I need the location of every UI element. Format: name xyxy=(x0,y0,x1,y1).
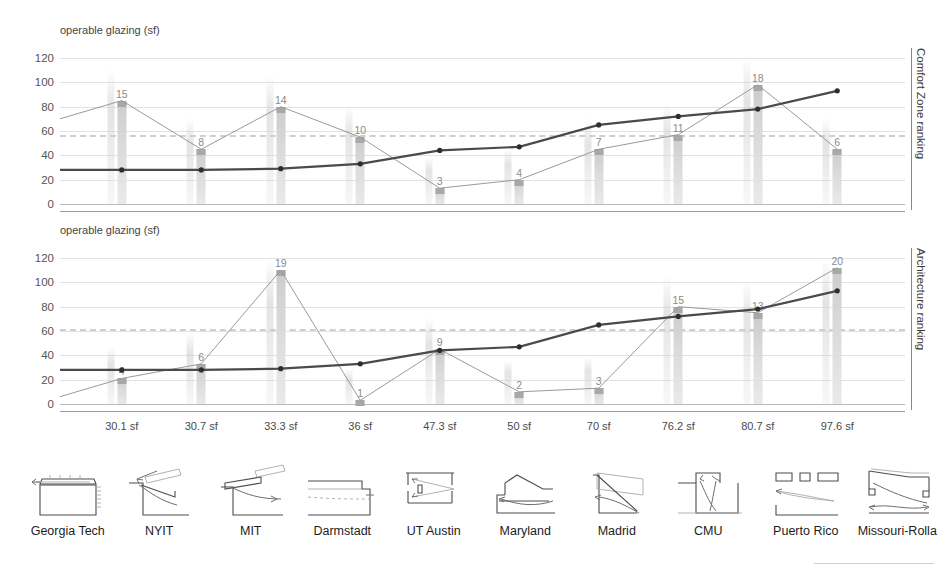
ut-austin-section xyxy=(392,455,476,521)
y-tick-label-100: 100 xyxy=(35,76,54,88)
school-label-missouri-rolla: Missouri-Rolla xyxy=(858,524,937,538)
x-tick-label: 47.3 sf xyxy=(423,420,456,432)
data-point xyxy=(755,107,760,112)
top-chart-axis-title: operable glazing (sf) xyxy=(60,24,160,36)
y-tick-label-100: 100 xyxy=(35,276,54,288)
y-tick-label-20: 20 xyxy=(41,174,54,186)
bottom-chart-vertical-label: Architecture ranking xyxy=(911,248,927,410)
data-point xyxy=(596,322,601,327)
architecture-ranking-chart: operable glazing (sf) 020406080100120461… xyxy=(60,246,905,412)
data-point xyxy=(437,148,442,153)
bottom-chart-axis-title: operable glazing (sf) xyxy=(60,224,160,236)
y-tick-label-120: 120 xyxy=(35,52,54,64)
data-point xyxy=(278,366,283,371)
school-label-puerto-rico: Puerto Rico xyxy=(773,524,838,538)
darmstadt-section xyxy=(300,455,384,521)
top-chart-vertical-label: Comfort Zone ranking xyxy=(911,48,927,210)
y-tick-label-0: 0 xyxy=(48,398,54,410)
y-tick-label-0: 0 xyxy=(48,198,54,210)
y-tick-label-20: 20 xyxy=(41,374,54,386)
footer-rule xyxy=(814,563,934,564)
school-label-nyit: NYIT xyxy=(145,524,173,538)
y-tick-label-40: 40 xyxy=(41,149,54,161)
data-point xyxy=(119,367,124,372)
data-point xyxy=(835,288,840,293)
data-point xyxy=(755,307,760,312)
puerto-rico-section xyxy=(764,455,848,521)
ranking-trend-line-stub xyxy=(60,378,122,396)
data-point xyxy=(199,367,204,372)
data-point xyxy=(835,88,840,93)
x-tick-label: 76.2 sf xyxy=(662,420,695,432)
x-tick-label: 50 sf xyxy=(507,420,531,432)
madrid-section xyxy=(575,455,659,521)
section-thumbnail-strip xyxy=(22,455,937,523)
school-label-madrid: Madrid xyxy=(598,524,636,538)
data-point xyxy=(119,167,124,172)
x-axis-tick-labels: 30.1 sf30.7 sf33.3 sf36 sf47.3 sf50 sf70… xyxy=(60,420,905,438)
y-tick-label-80: 80 xyxy=(41,101,54,113)
y-tick-label-40: 40 xyxy=(41,349,54,361)
data-point xyxy=(199,167,204,172)
x-tick-label: 80.7 sf xyxy=(741,420,774,432)
data-point xyxy=(358,161,363,166)
bottom-chart-lines xyxy=(60,246,905,412)
school-label-mit: MIT xyxy=(240,524,262,538)
school-label-cmu: CMU xyxy=(694,524,722,538)
maryland-section xyxy=(483,455,567,521)
data-point xyxy=(676,114,681,119)
missouri-rolla-section xyxy=(855,455,939,521)
cmu-section xyxy=(666,455,750,521)
data-point xyxy=(676,314,681,319)
data-point xyxy=(437,348,442,353)
y-tick-label-80: 80 xyxy=(41,301,54,313)
data-point xyxy=(517,144,522,149)
x-tick-label: 36 sf xyxy=(348,420,372,432)
comfort-zone-chart: operable glazing (sf) 020406080100120158… xyxy=(60,46,905,212)
georgia-tech-section xyxy=(26,455,110,521)
school-name-row: Georgia TechNYITMITDarmstadtUT AustinMar… xyxy=(22,524,937,544)
ranking-trend-line-stub xyxy=(60,101,122,119)
school-label-ut-austin: UT Austin xyxy=(407,524,461,538)
school-label-darmstadt: Darmstadt xyxy=(313,524,371,538)
nyit-section xyxy=(117,455,201,521)
x-tick-label: 30.1 sf xyxy=(105,420,138,432)
x-tick-label: 97.6 sf xyxy=(821,420,854,432)
y-tick-label-60: 60 xyxy=(41,125,54,137)
y-tick-label-120: 120 xyxy=(35,252,54,264)
ranking-trend-line xyxy=(122,268,838,401)
data-point xyxy=(278,166,283,171)
data-point xyxy=(358,361,363,366)
top-chart-lines xyxy=(60,46,905,212)
data-point xyxy=(596,122,601,127)
x-tick-label: 70 sf xyxy=(587,420,611,432)
mit-section xyxy=(209,455,293,521)
y-tick-label-60: 60 xyxy=(41,325,54,337)
school-label-maryland: Maryland xyxy=(500,524,551,538)
ranking-trend-line xyxy=(122,85,838,188)
x-tick-label: 30.7 sf xyxy=(185,420,218,432)
data-point xyxy=(517,344,522,349)
school-label-georgia-tech: Georgia Tech xyxy=(31,524,105,538)
x-tick-label: 33.3 sf xyxy=(264,420,297,432)
